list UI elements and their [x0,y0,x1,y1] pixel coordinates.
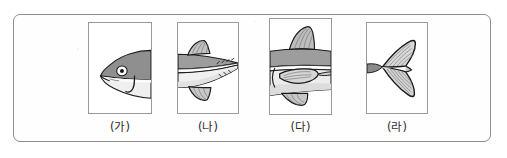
fish-head-illustration [89,23,151,113]
panel-ra [366,22,428,114]
panel-caption-da: (다) [259,118,342,134]
scan-speck [77,48,79,50]
scan-speck [254,21,257,22]
panel-caption-ga: (가) [78,118,162,134]
panel-na [177,22,239,114]
panel-caption-ra: (라) [356,118,438,134]
panel-caption-na: (나) [167,118,249,134]
fish-caudal-fin-illustration [367,23,427,113]
panel-ga [88,22,152,114]
fish-midbody-illustration [270,19,331,114]
panel-da [269,18,332,115]
fish-tail-section-illustration [178,23,238,113]
